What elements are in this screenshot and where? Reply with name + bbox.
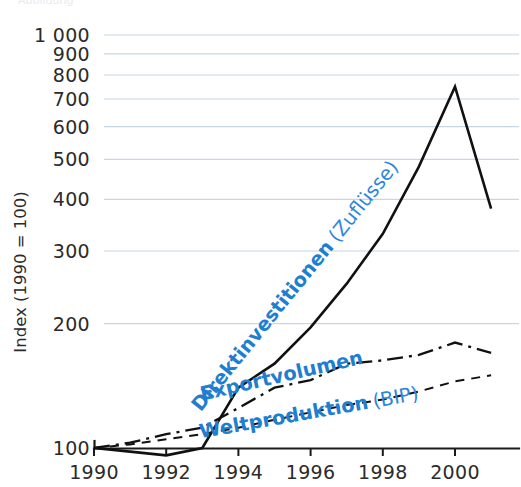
y-tick-label-500: 500 [53,148,90,170]
chart-svg: 1002003004005006007008009001 000 1990199… [0,0,521,487]
chart-figure: Abbildung 1002003004005006007008009001 0… [0,0,521,487]
y-tick-label-600: 600 [53,116,90,138]
y-tick-label-400: 400 [53,188,90,210]
y-axis-title: Index (1990 = 100) [11,191,30,352]
x-tick-label-1996: 1996 [286,461,336,483]
y-tick-label-800: 800 [53,64,90,86]
x-tick-label-1990: 1990 [69,461,119,483]
y-tick-label-300: 300 [53,240,90,262]
y-tick-label-200: 200 [53,313,90,335]
y-tick-label-1000: 1 000 [34,24,90,46]
y-tick-label-700: 700 [53,88,90,110]
y-tick-label-100: 100 [53,437,90,459]
x-tick-label-2000: 2000 [430,461,480,483]
x-tick-label-1994: 1994 [214,461,264,483]
y-tick-label-900: 900 [53,43,90,65]
x-tick-label-1998: 1998 [358,461,408,483]
x-tick-label-1992: 1992 [141,461,191,483]
